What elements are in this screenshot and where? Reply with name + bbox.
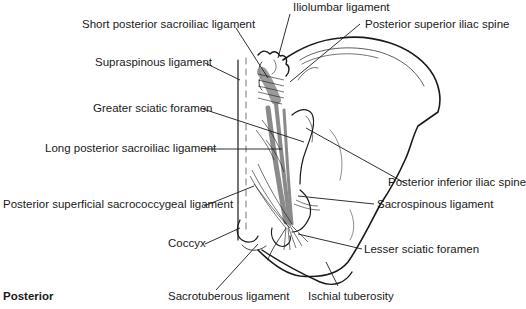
coccyx-shape <box>271 228 290 246</box>
label-long-posterior-sacroiliac-ligament: Long posterior sacroiliac ligament <box>45 142 216 155</box>
label-sacrospinous-ligament: Sacrospinous ligament <box>377 198 493 211</box>
label-greater-sciatic-foramen: Greater sciatic foramen <box>93 102 213 115</box>
label-posterior-inferior-iliac-spine: Posterior inferior iliac spine <box>388 176 526 189</box>
label-supraspinous-ligament: Supraspinous ligament <box>95 56 212 69</box>
label-iliolumbar-ligament: Iliolumbar ligament <box>293 1 390 14</box>
label-posterior-superior-iliac-spine: Posterior superior iliac spine <box>365 18 509 31</box>
label-posterior-superficial-sacrococcygeal-ligament: Posterior superficial sacrococcygeal lig… <box>3 198 233 211</box>
ilium-outline <box>258 37 440 276</box>
label-lesser-sciatic-foramen: Lesser sciatic foramen <box>364 243 479 256</box>
label-sacrotuberous-ligament: Sacrotuberous ligament <box>168 290 289 303</box>
label-short-posterior-sacroiliac-ligament: Short posterior sacroiliac ligament <box>82 18 255 31</box>
label-ischial-tuberosity: Ischial tuberosity <box>308 290 394 303</box>
label-coccyx: Coccyx <box>168 237 206 250</box>
view-label: Posterior <box>3 290 54 302</box>
